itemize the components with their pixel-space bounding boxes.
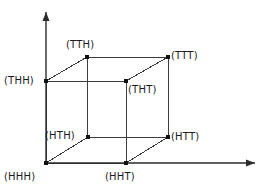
cube-diagram: (HHH)(HHT)(THH)(THT)(HTH)(HTT)(TTH)(TTT): [0, 0, 269, 191]
vertex-dot-THH: [44, 79, 48, 83]
cube-svg-canvas: [0, 0, 269, 191]
edge-THH-TTH: [46, 57, 87, 81]
vertex-label-TTH: (TTH): [66, 39, 94, 50]
vertex-label-HHH: (HHH): [4, 171, 35, 182]
vertex-dot-HHH: [44, 161, 48, 165]
edge-HTH-TTH: [87, 57, 88, 137]
edge-HHT-HTT: [126, 137, 168, 163]
vertex-dot-TTH: [85, 55, 89, 59]
vertex-label-HTH: (HTH): [45, 130, 75, 141]
vertical-axis-arrowhead: [43, 12, 50, 21]
vertex-label-THH: (THH): [4, 75, 34, 86]
vertex-label-THT: (THT): [128, 84, 157, 95]
vertex-dot-HTT: [166, 135, 170, 139]
vertex-label-HHT: (HHT): [105, 171, 135, 182]
cube-edges-group: [46, 57, 168, 163]
vertex-dot-TTT: [166, 55, 170, 59]
horizontal-axis-arrowhead: [246, 160, 255, 167]
vertex-dot-THT: [124, 79, 128, 83]
vertex-dot-HTH: [86, 135, 90, 139]
vertex-dot-HHT: [124, 161, 128, 165]
vertex-label-HTT: (HTT): [171, 131, 199, 142]
vertex-label-TTT: (TTT): [171, 50, 198, 61]
edge-THT-TTT: [126, 57, 168, 81]
